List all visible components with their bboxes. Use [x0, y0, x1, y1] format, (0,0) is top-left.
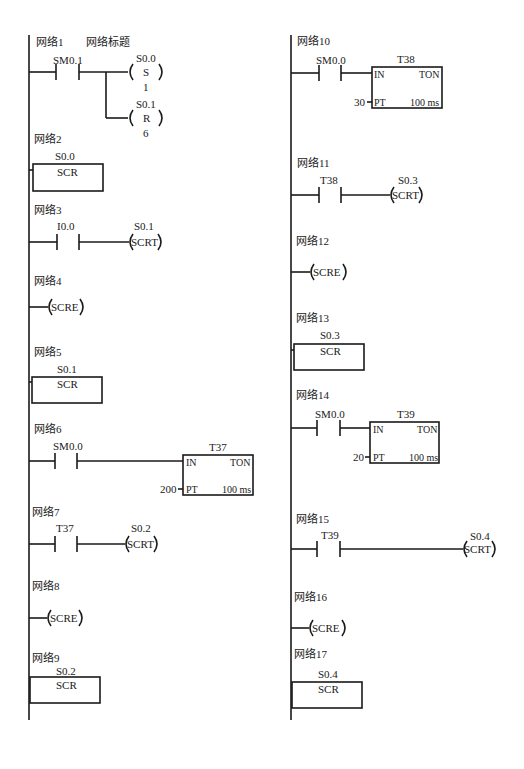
- timer-in-pin: IN: [374, 69, 385, 80]
- coil-op: SCRE: [313, 266, 341, 278]
- timer-pt-value: 30: [354, 96, 366, 108]
- coil-op: SCRE: [312, 622, 340, 634]
- network-label: 网络3: [34, 203, 62, 216]
- box-name: SCR: [57, 166, 78, 178]
- network-label: 网络9: [32, 651, 60, 664]
- network-15: 网络15 T39 S0.4 SCRT: [291, 512, 495, 557]
- contact-address: T39: [321, 529, 339, 541]
- network-14: 网络14 SM0.0 T39 IN TON PT 100 ms 20: [291, 388, 439, 463]
- network-16: 网络16 SCRE: [291, 590, 345, 636]
- network-10: 网络10 SM0.0 T38 IN TON PT 100 ms 30: [291, 34, 442, 108]
- network-11: 网络11 T38 S0.3 SCRT: [291, 156, 422, 203]
- network-2: 网络2 S0.0 SCR: [29, 132, 103, 191]
- network-8: 网络8 SCRE: [29, 579, 82, 626]
- coil-set-icon: [130, 64, 133, 80]
- coil-address: S0.1: [134, 220, 154, 232]
- contact-address: I0.0: [57, 220, 75, 232]
- coil-op: SCRT: [464, 543, 491, 555]
- coil-address: S0.4: [470, 530, 490, 542]
- coil-address: S0.0: [136, 52, 156, 64]
- network-label: 网络10: [297, 34, 331, 47]
- network-label: 网络11: [297, 156, 330, 169]
- network-3: 网络3 I0.0 S0.1 SCRT: [29, 203, 161, 250]
- contact-address: SM0.0: [315, 408, 345, 420]
- timer-name: T37: [209, 441, 227, 453]
- coil-op: SCRT: [392, 189, 419, 201]
- box-address: S0.3: [320, 329, 340, 341]
- timer-name: T39: [397, 408, 415, 420]
- network-13: 网络13 S0.3 SCR: [291, 311, 364, 370]
- network-label: 网络5: [34, 345, 62, 358]
- coil-op: R: [143, 112, 151, 124]
- network-1: 网络1 网络标题 SM0.1 S0.0 S 1 S0.1 R 6: [29, 35, 162, 139]
- timer-name: T38: [397, 53, 415, 65]
- network-title: 网络标题: [86, 35, 130, 48]
- timer-base: 100 ms: [410, 97, 439, 108]
- contact-address: SM0.0: [53, 440, 83, 452]
- network-5: 网络5 S0.1 SCR: [29, 345, 102, 403]
- network-label: 网络17: [294, 647, 328, 660]
- timer-type: TON: [417, 424, 437, 435]
- network-4: 网络4 SCRE: [29, 274, 83, 315]
- network-17: 网络17 S0.4 SCR: [291, 647, 362, 708]
- coil-op: SCRT: [131, 236, 158, 248]
- coil-address: S0.1: [136, 98, 156, 110]
- network-label: 网络12: [296, 234, 329, 247]
- network-12: 网络12 SCRE: [291, 234, 346, 280]
- network-label: 网络1: [36, 35, 64, 48]
- box-name: SCR: [318, 683, 339, 695]
- network-9: 网络9 S0.2 SCR: [29, 651, 100, 703]
- timer-pt-pin: PT: [186, 484, 198, 495]
- contact-address: T38: [320, 174, 338, 186]
- network-label: 网络15: [296, 512, 330, 525]
- network-label: 网络7: [32, 505, 60, 518]
- coil-op: S: [143, 66, 149, 78]
- box-address: S0.1: [57, 363, 77, 375]
- timer-base: 100 ms: [409, 452, 438, 463]
- network-label: 网络13: [296, 311, 330, 324]
- network-label: 网络8: [32, 579, 60, 592]
- network-label: 网络4: [34, 274, 62, 287]
- timer-pt-pin: PT: [374, 97, 386, 108]
- timer-in-pin: IN: [186, 457, 197, 468]
- coil-op: SCRE: [50, 612, 78, 624]
- network-label: 网络2: [34, 132, 62, 145]
- box-address: S0.4: [318, 668, 338, 680]
- coil-address: S0.3: [398, 174, 418, 186]
- contact-address: SM0.0: [316, 54, 346, 66]
- timer-pt-value: 200: [160, 483, 177, 495]
- timer-pt-value: 20: [353, 451, 365, 463]
- box-name: SCR: [57, 378, 78, 390]
- network-label: 网络16: [294, 590, 328, 603]
- timer-type: TON: [230, 457, 250, 468]
- box-name: SCR: [56, 679, 77, 691]
- coil-address: S0.2: [131, 522, 151, 534]
- box-address: S0.2: [56, 665, 76, 677]
- network-label: 网络14: [296, 388, 330, 401]
- timer-type: TON: [419, 69, 439, 80]
- timer-in-pin: IN: [373, 424, 384, 435]
- coil-op: SCRE: [51, 301, 79, 313]
- contact-address: T37: [56, 522, 74, 534]
- box-name: SCR: [320, 345, 341, 357]
- box-address: S0.0: [55, 150, 75, 162]
- timer-pt-pin: PT: [373, 452, 385, 463]
- ladder-diagram: 网络1 网络标题 SM0.1 S0.0 S 1 S0.1 R 6 网络2 S0.…: [0, 0, 524, 769]
- timer-base: 100 ms: [222, 484, 251, 495]
- coil-count: 1: [143, 81, 149, 93]
- coil-op: SCRT: [127, 538, 154, 550]
- network-7: 网络7 T37 S0.2 SCRT: [29, 505, 157, 552]
- network-6: 网络6 SM0.0 T37 IN TON PT 100 ms 200: [29, 422, 253, 495]
- coil-reset-icon: [130, 110, 133, 126]
- coil-count: 6: [143, 127, 149, 139]
- network-label: 网络6: [34, 422, 62, 435]
